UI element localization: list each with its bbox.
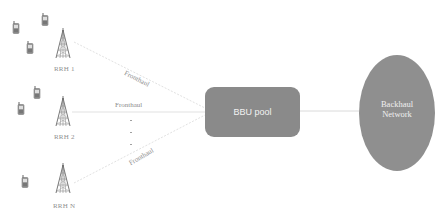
rrh-2-label: RRH 2 — [54, 134, 75, 141]
phone-icon-rrh1-c — [27, 41, 33, 54]
backhaul-label-line2: Network — [359, 109, 435, 119]
phone-icon-rrh1-b — [42, 13, 48, 26]
backhaul-label-line1: Backhaul — [359, 99, 435, 109]
ellipsis-dot-1 — [130, 120, 132, 121]
phone-icon-rrh2-b — [18, 102, 24, 115]
fronthaul-link-rrhn — [74, 115, 205, 183]
ellipsis-dot-2 — [130, 132, 132, 133]
phone-icon-rrhn-a — [22, 175, 28, 188]
rrh-1-label: RRH 1 — [54, 66, 75, 73]
backhaul-network-label: Backhaul Network — [359, 99, 435, 119]
tower-icon-rrhn — [56, 163, 70, 193]
ellipsis-dot-3 — [130, 144, 132, 145]
tower-icon-rrh1 — [56, 28, 70, 58]
bbu-pool-label: BBU pool — [205, 87, 300, 137]
rrh-n-label: RRH N — [53, 203, 75, 210]
fronthaul-label-2: Fronthaul — [115, 102, 142, 109]
tower-icon-rrh2 — [56, 96, 70, 126]
phone-icon-rrh1-a — [13, 21, 19, 34]
phone-icon-rrh2-a — [34, 86, 40, 99]
